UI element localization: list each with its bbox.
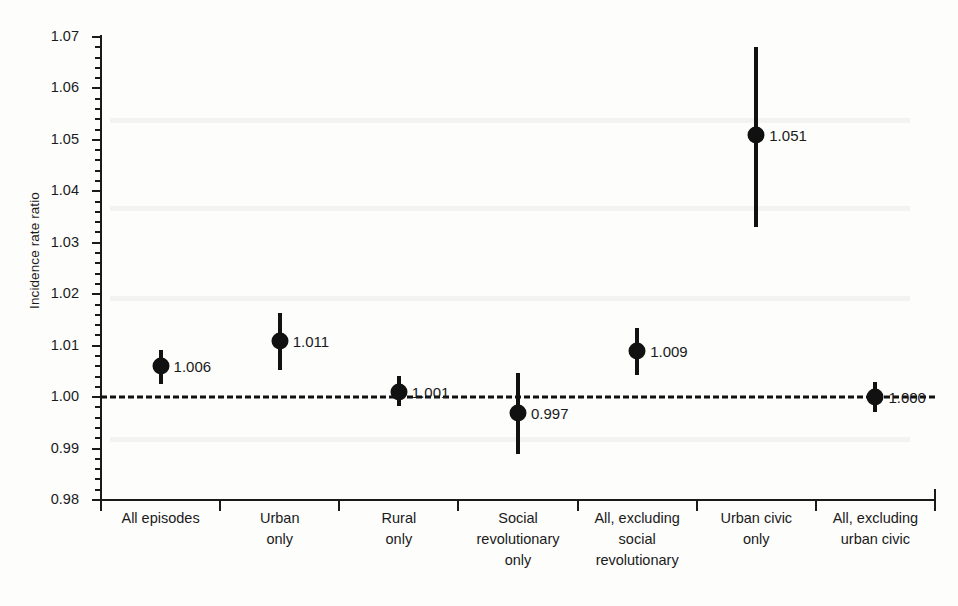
y-tick-major: 1.00 bbox=[92, 396, 101, 398]
x-category-label: All, excludingsocialrevolutionary bbox=[578, 508, 697, 571]
x-category-label-line: only bbox=[220, 529, 339, 550]
chart-page: Incidence rate ratio 1.071.061.051.041.0… bbox=[0, 0, 958, 606]
data-point-marker[interactable] bbox=[867, 389, 884, 406]
y-tick-label: 1.05 bbox=[51, 131, 79, 147]
x-category-label-line: only bbox=[458, 550, 577, 571]
x-category-label: All episodes bbox=[101, 508, 220, 529]
y-tick-label: 1.06 bbox=[51, 79, 79, 95]
x-category-label-line: social bbox=[578, 529, 697, 550]
y-tick-label: 1.02 bbox=[51, 285, 79, 301]
y-axis-title: Incidence rate ratio bbox=[14, 0, 54, 500]
y-tick-minor bbox=[95, 478, 101, 480]
y-tick-label: 0.99 bbox=[51, 440, 79, 456]
y-tick-minor bbox=[95, 314, 101, 316]
y-tick-label: 1.07 bbox=[51, 28, 79, 44]
x-category-label: All, excludingurban civic bbox=[816, 508, 935, 550]
y-tick-major: 1.05 bbox=[92, 139, 101, 141]
y-tick-label: 0.98 bbox=[51, 491, 79, 507]
y-tick-minor bbox=[95, 489, 101, 491]
y-tick-minor bbox=[95, 149, 101, 151]
y-tick-minor bbox=[95, 57, 101, 59]
y-tick-label: 1.03 bbox=[51, 234, 79, 250]
data-point-marker[interactable] bbox=[390, 383, 407, 400]
x-category-label-line: Urban bbox=[220, 508, 339, 529]
y-tick-minor bbox=[95, 67, 101, 69]
data-point-value-label: 1.051 bbox=[769, 126, 807, 143]
x-category-label-line: Rural bbox=[339, 508, 458, 529]
data-point-marker[interactable] bbox=[748, 126, 765, 143]
y-tick-minor bbox=[95, 46, 101, 48]
y-tick-minor bbox=[95, 201, 101, 203]
y-tick-minor bbox=[95, 211, 101, 213]
x-category-label-line: urban civic bbox=[816, 529, 935, 550]
x-category-label-line: Urban civic bbox=[697, 508, 816, 529]
x-category-label-line: All, excluding bbox=[578, 508, 697, 529]
y-tick-major: 1.06 bbox=[92, 87, 101, 89]
data-point-marker[interactable] bbox=[271, 332, 288, 349]
y-tick-major: 0.99 bbox=[92, 448, 101, 450]
y-tick-minor bbox=[95, 180, 101, 182]
y-tick-minor bbox=[95, 324, 101, 326]
y-tick-label: 1.01 bbox=[51, 337, 79, 353]
y-tick-minor bbox=[95, 417, 101, 419]
data-point-value-label: 1.006 bbox=[174, 358, 212, 375]
y-tick-minor bbox=[95, 334, 101, 336]
y-tick-minor bbox=[95, 406, 101, 408]
x-category-label: Socialrevolutionaryonly bbox=[458, 508, 577, 571]
x-category-label-line: All, excluding bbox=[816, 508, 935, 529]
y-tick-minor bbox=[95, 118, 101, 120]
data-point-value-label: 1.009 bbox=[650, 342, 688, 359]
data-point-value-label: 1.001 bbox=[412, 383, 450, 400]
x-category-label: Urban civiconly bbox=[697, 508, 816, 550]
y-tick-major: 1.07 bbox=[92, 36, 101, 38]
y-tick-minor bbox=[95, 262, 101, 264]
data-point-marker[interactable] bbox=[510, 404, 527, 421]
x-category-label-line: revolutionary bbox=[458, 529, 577, 550]
x-category-label-line: only bbox=[339, 529, 458, 550]
y-tick-major: 1.01 bbox=[92, 345, 101, 347]
data-point-value-label: 0.997 bbox=[531, 404, 569, 421]
y-tick-minor bbox=[95, 283, 101, 285]
data-point-value-label: 1.011 bbox=[293, 332, 329, 349]
y-tick-minor bbox=[95, 458, 101, 460]
y-tick-minor bbox=[95, 252, 101, 254]
y-tick-major: 1.04 bbox=[92, 190, 101, 192]
y-tick-label: 1.04 bbox=[51, 182, 79, 198]
y-tick-minor bbox=[95, 376, 101, 378]
data-point-marker[interactable] bbox=[629, 342, 646, 359]
data-point-marker[interactable] bbox=[152, 358, 169, 375]
y-tick-minor bbox=[95, 98, 101, 100]
y-tick-minor bbox=[95, 77, 101, 79]
x-category-label-line: only bbox=[697, 529, 816, 550]
y-tick-minor bbox=[95, 437, 101, 439]
x-category-label-line: Social bbox=[458, 508, 577, 529]
y-tick-minor bbox=[95, 108, 101, 110]
y-tick-minor bbox=[95, 170, 101, 172]
y-tick-minor bbox=[95, 159, 101, 161]
y-tick-minor bbox=[95, 355, 101, 357]
y-tick-minor bbox=[95, 231, 101, 233]
y-tick-label: 1.00 bbox=[51, 388, 79, 404]
x-category-label-line: All episodes bbox=[101, 508, 220, 529]
y-tick-minor bbox=[95, 304, 101, 306]
x-category-label: Ruralonly bbox=[339, 508, 458, 550]
y-tick-major: 1.03 bbox=[92, 242, 101, 244]
x-category-label-line: revolutionary bbox=[578, 550, 697, 571]
y-tick-minor bbox=[95, 386, 101, 388]
y-tick-minor bbox=[95, 365, 101, 367]
plot-area: 1.071.061.051.041.031.021.011.000.990.98… bbox=[101, 37, 935, 500]
y-tick-minor bbox=[95, 427, 101, 429]
y-tick-minor bbox=[95, 221, 101, 223]
y-tick-minor bbox=[95, 273, 101, 275]
x-category-label: Urbanonly bbox=[220, 508, 339, 550]
y-tick-minor bbox=[95, 129, 101, 131]
data-point-value-label: 1.000 bbox=[888, 389, 926, 406]
y-tick-minor bbox=[95, 468, 101, 470]
y-tick-major: 1.02 bbox=[92, 293, 101, 295]
